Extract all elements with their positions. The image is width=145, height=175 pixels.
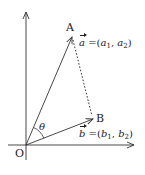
segment-ab-dashed	[73, 40, 92, 116]
vector-a-symbol: a	[79, 38, 85, 48]
vector-diagram: A B O θ a =(a1, a2) b =(b1, b2)	[0, 0, 145, 175]
point-label-a: A	[66, 22, 74, 33]
vector-a-arrow	[26, 37, 72, 145]
point-label-b: B	[96, 113, 104, 124]
vector-b-symbol: b	[79, 129, 85, 139]
angle-theta-label: θ	[39, 122, 45, 132]
vector-b-equation: b =(b1, b2)	[79, 129, 133, 141]
point-label-origin: O	[15, 148, 24, 159]
vector-a-equation: a =(a1, a2)	[79, 38, 132, 50]
